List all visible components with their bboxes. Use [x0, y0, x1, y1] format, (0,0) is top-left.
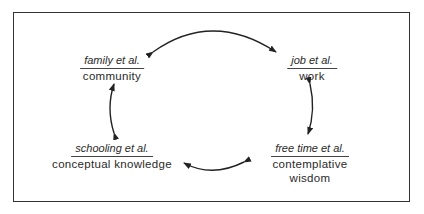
- node-work-bottom-label: work: [287, 69, 337, 83]
- node-contemplative-bottom-label: contemplative wisdom: [253, 157, 367, 185]
- node-work: job et al. work: [287, 50, 337, 83]
- arrow-community-work: [153, 31, 276, 52]
- node-conceptual-bottom-label: conceptual knowledge: [52, 157, 172, 171]
- node-contemplative: free time et al. contemplative wisdom: [253, 138, 367, 185]
- node-community-bottom-label: community: [80, 69, 144, 83]
- node-conceptual: schooling et al. conceptual knowledge: [52, 138, 172, 171]
- node-community-top-label: family et al.: [80, 54, 144, 69]
- node-contemplative-top-label: free time et al.: [271, 142, 349, 157]
- arrow-contemplative-conceptual: [184, 162, 244, 170]
- arrow-conceptual-community: [110, 84, 114, 133]
- arrow-work-contemplative: [308, 84, 313, 134]
- node-conceptual-top-label: schooling et al.: [71, 142, 152, 157]
- node-work-top-label: job et al.: [287, 54, 337, 69]
- node-community: family et al. community: [80, 50, 144, 83]
